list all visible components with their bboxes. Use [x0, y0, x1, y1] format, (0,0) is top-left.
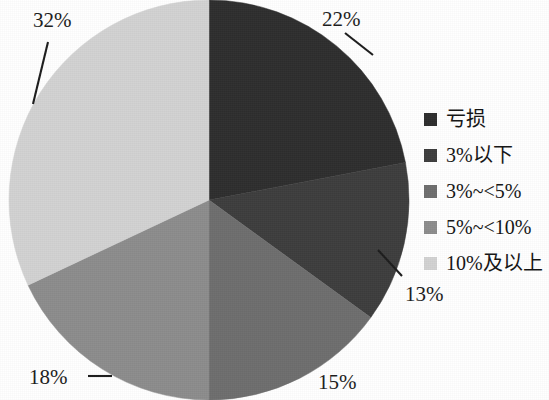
legend-item-label: 亏损 — [446, 109, 486, 129]
legend-swatch-icon — [424, 185, 437, 198]
pie-slice-group — [9, 0, 409, 400]
legend-item[interactable]: 3%~<5% — [424, 173, 549, 209]
chart-legend: 亏损3%以下3%~<5%5%~<10%10%及以上 — [424, 101, 549, 281]
legend-item[interactable]: 亏损 — [424, 101, 549, 137]
pie-chart-figure: 32% 22% 13% 15% 18% 亏损3%以下3%~<5%5%~<10%1… — [0, 0, 549, 400]
legend-swatch-icon — [424, 221, 437, 234]
legend-item[interactable]: 3%以下 — [424, 137, 549, 173]
legend-item-label: 10%及以上 — [446, 253, 543, 273]
legend-item-label: 5%~<10% — [446, 217, 531, 237]
legend-swatch-icon — [424, 113, 437, 126]
leader-line-22 — [345, 33, 373, 55]
legend-item-label: 3%以下 — [446, 145, 513, 165]
legend-swatch-icon — [424, 149, 437, 162]
slice-value-label-13: 13% — [405, 282, 444, 307]
legend-swatch-icon — [424, 257, 437, 270]
legend-item[interactable]: 10%及以上 — [424, 245, 549, 281]
slice-value-label-15: 15% — [318, 370, 357, 395]
slice-value-label-32: 32% — [33, 8, 72, 33]
slice-value-label-22: 22% — [322, 7, 361, 32]
legend-item[interactable]: 5%~<10% — [424, 209, 549, 245]
slice-value-label-18: 18% — [29, 365, 68, 390]
legend-item-label: 3%~<5% — [446, 181, 521, 201]
